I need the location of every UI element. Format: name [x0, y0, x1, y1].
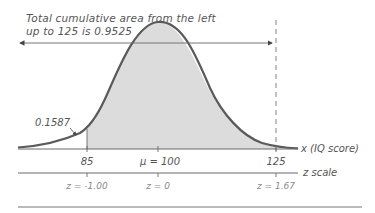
annotation-line-2: up to 125 is 0.9525	[26, 25, 132, 37]
z-tick-label-neg1: z = -1.00	[65, 181, 108, 191]
x-tick-label-125: 125	[266, 156, 285, 167]
x-tick-label-85: 85	[81, 156, 94, 167]
annotation-line-1: Total cumulative area from the left	[26, 12, 216, 24]
z-axis-label: z scale	[302, 167, 337, 178]
normal-distribution-figure: Total cumulative area from the left up t…	[0, 0, 375, 213]
z-tick-label-167: z = 1.67	[256, 181, 295, 191]
shaded-area	[87, 22, 276, 149]
z-tick-label-0: z = 0	[145, 181, 170, 191]
x-axis-label: x (IQ score)	[300, 143, 359, 154]
left-tail-pointer	[70, 128, 76, 135]
x-tick-label-100: μ = 100	[139, 156, 180, 167]
left-tail-label: 0.1587	[35, 117, 71, 128]
